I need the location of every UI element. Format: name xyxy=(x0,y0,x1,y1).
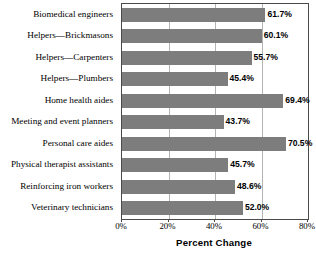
bar xyxy=(122,51,252,65)
bar-value-label: 61.7% xyxy=(267,9,291,19)
bar-value-label: 45.7% xyxy=(230,159,254,169)
category-label: Physical therapist assistants xyxy=(0,159,113,169)
bar xyxy=(122,158,228,172)
bar-value-label: 45.4% xyxy=(230,73,254,83)
bar xyxy=(122,180,235,194)
bar xyxy=(122,94,283,108)
x-tick-label: 0% xyxy=(115,221,127,231)
x-tick-label: 80% xyxy=(299,221,315,231)
category-label: Veterinary technicians xyxy=(0,202,113,212)
category-label: Home health aides xyxy=(0,95,113,105)
category-label: Biomedical engineers xyxy=(0,9,113,19)
bar xyxy=(122,201,243,215)
bar xyxy=(122,115,224,129)
bar xyxy=(122,137,286,151)
bar-chart: Biomedical engineersHelpers—BrickmasonsH… xyxy=(0,0,316,258)
category-axis-labels: Biomedical engineersHelpers—BrickmasonsH… xyxy=(0,3,117,218)
bar xyxy=(122,8,265,22)
category-label: Personal care aides xyxy=(0,138,113,148)
bar-value-label: 48.6% xyxy=(237,181,261,191)
bar-value-label: 70.5% xyxy=(288,138,312,148)
category-label: Helpers—Plumbers xyxy=(0,73,113,83)
bar-value-label: 52.0% xyxy=(245,202,269,212)
x-tick-label: 40% xyxy=(206,221,222,231)
bar-value-label: 55.7% xyxy=(254,52,278,62)
category-label: Helpers—Carpenters xyxy=(0,52,113,62)
x-tick-label: 20% xyxy=(159,221,175,231)
bar-value-label: 60.1% xyxy=(264,30,288,40)
category-label: Reinforcing iron workers xyxy=(0,181,113,191)
category-label: Helpers—Brickmasons xyxy=(0,30,113,40)
bar xyxy=(122,72,228,86)
bar-value-label: 69.4% xyxy=(285,95,309,105)
category-label: Meeting and event planners xyxy=(0,116,113,126)
bar xyxy=(122,29,262,43)
x-tick-label: 60% xyxy=(252,221,268,231)
bar-value-label: 43.7% xyxy=(226,116,250,126)
x-axis-title: Percent Change xyxy=(121,237,307,248)
